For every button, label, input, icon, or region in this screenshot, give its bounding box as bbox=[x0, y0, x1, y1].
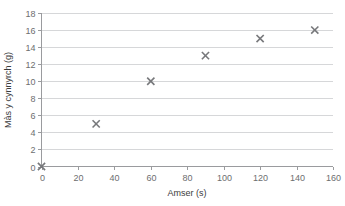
x-tick-label: 120 bbox=[253, 173, 268, 183]
data-point bbox=[202, 52, 209, 59]
x-tick-label: 0 bbox=[40, 173, 45, 183]
y-tick-label: 18 bbox=[25, 9, 35, 19]
y-tick-label: 12 bbox=[25, 60, 35, 70]
x-tick-label: 140 bbox=[290, 173, 305, 183]
data-point bbox=[257, 35, 264, 42]
y-axis-ticks: 024681012141618 bbox=[25, 9, 41, 173]
y-tick-label: 2 bbox=[30, 145, 35, 155]
x-tick-label: 20 bbox=[73, 173, 83, 183]
y-tick-label: 10 bbox=[25, 77, 35, 87]
x-axis-ticks: 020406080100120140160 bbox=[40, 167, 341, 183]
x-tick-label: 40 bbox=[109, 173, 119, 183]
x-axis-title: Amser (s) bbox=[168, 188, 207, 198]
y-tick-label: 8 bbox=[30, 94, 35, 104]
axes bbox=[41, 13, 333, 167]
y-tick-label: 0 bbox=[30, 163, 35, 173]
x-tick-label: 80 bbox=[182, 173, 192, 183]
data-point bbox=[93, 120, 100, 127]
y-tick-label: 4 bbox=[30, 128, 35, 138]
chart-canvas: 024681012141618 020406080100120140160 Am… bbox=[0, 0, 345, 206]
scatter-chart: 024681012141618 020406080100120140160 Am… bbox=[0, 0, 345, 206]
x-tick-label: 160 bbox=[326, 173, 341, 183]
x-tick-label: 100 bbox=[217, 173, 232, 183]
y-tick-label: 16 bbox=[25, 26, 35, 36]
y-tick-label: 14 bbox=[25, 43, 35, 53]
gridlines bbox=[42, 14, 334, 150]
y-axis-title: Màs y cynnyrch (g) bbox=[3, 52, 13, 128]
y-tick-label: 6 bbox=[30, 111, 35, 121]
x-tick-label: 60 bbox=[146, 173, 156, 183]
